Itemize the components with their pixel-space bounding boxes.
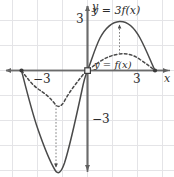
- curve-label-f-of-x: y = f(x): [94, 60, 132, 70]
- y-axis-tick-label-minus-3: −3: [92, 113, 110, 125]
- y-axis-tick-label-3: 3: [76, 13, 84, 25]
- coordinate-plot: [0, 0, 174, 177]
- curve-label-3f-of-x: y = 3f(x): [92, 5, 140, 16]
- point-origin: [85, 68, 91, 74]
- point-left-root: [19, 68, 23, 72]
- point-right-root: [153, 68, 157, 72]
- y-axis-label: y: [92, 1, 98, 12]
- x-axis-tick-label-minus-3: −3: [33, 73, 51, 85]
- graph-figure: y = 3f(x) y = f(x) 3 −3 −3 3 x y: [0, 0, 174, 177]
- x-axis-label: x: [164, 73, 170, 84]
- x-axis-tick-label-3: 3: [133, 73, 141, 85]
